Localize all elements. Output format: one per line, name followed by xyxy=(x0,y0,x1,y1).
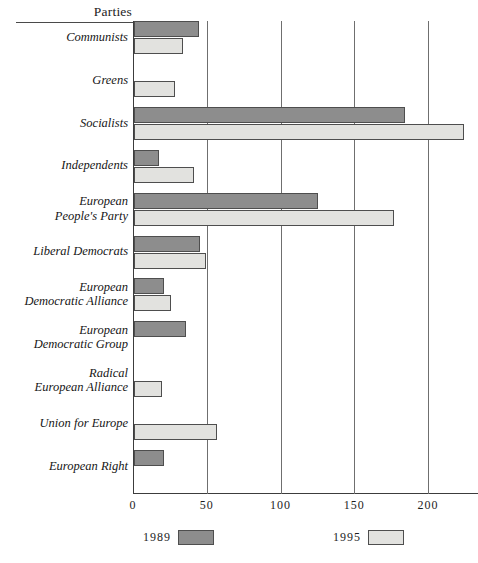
tick-label-150: 150 xyxy=(344,498,365,513)
category-label: EuropeanDemocratic Group xyxy=(0,323,128,352)
bar-1995 xyxy=(134,253,206,269)
chart-row: Union for Europe xyxy=(0,407,478,450)
chart-row: EuropeanDemocratic Group xyxy=(0,321,478,364)
chart-row: Liberal Democrats xyxy=(0,236,478,279)
parties-column-header: Parties xyxy=(14,4,132,20)
legend-item-1989: 1989 xyxy=(143,530,214,545)
category-label-line: European xyxy=(0,280,128,295)
category-label: Communists xyxy=(0,30,128,45)
category-label-line: Democratic Group xyxy=(0,337,128,352)
tick-label-100: 100 xyxy=(270,498,291,513)
chart-row: Greens xyxy=(0,64,478,107)
category-label-line: Radical xyxy=(0,366,128,381)
bar-1989 xyxy=(134,193,318,209)
bar-1989 xyxy=(134,150,159,166)
category-label-line: European Right xyxy=(0,459,128,474)
category-label: Greens xyxy=(0,73,128,88)
tick-label-0: 0 xyxy=(130,498,137,513)
x-axis-line xyxy=(133,493,478,494)
category-label: RadicalEuropean Alliance xyxy=(0,366,128,395)
chart-row: EuropeanDemocratic Alliance xyxy=(0,278,478,321)
chart-row: European Right xyxy=(0,450,478,493)
legend-label: 1989 xyxy=(143,530,171,545)
chart-row: Communists xyxy=(0,21,478,64)
bar-1995 xyxy=(134,167,194,183)
category-label-line: European Alliance xyxy=(0,380,128,395)
category-label: Socialists xyxy=(0,116,128,131)
tick-label-200: 200 xyxy=(418,498,439,513)
category-label-line: European xyxy=(0,323,128,338)
bar-1995 xyxy=(134,81,175,97)
category-label: European Right xyxy=(0,459,128,474)
category-label-line: European xyxy=(0,194,128,209)
bar-1989 xyxy=(134,278,164,294)
category-label-line: People's Party xyxy=(0,209,128,224)
bar-1989 xyxy=(134,21,199,37)
category-label-line: Communists xyxy=(0,30,128,45)
category-label: Union for Europe xyxy=(0,416,128,431)
legend-label: 1995 xyxy=(333,530,361,545)
bar-1995 xyxy=(134,124,464,140)
bar-1995 xyxy=(134,38,183,54)
chart-row: Socialists xyxy=(0,107,478,150)
bar-1989 xyxy=(134,321,186,337)
category-label: EuropeanPeople's Party xyxy=(0,194,128,223)
chart-row: RadicalEuropean Alliance xyxy=(0,364,478,407)
legend-swatch xyxy=(368,530,404,545)
bar-1995 xyxy=(134,381,162,397)
bar-1995 xyxy=(134,295,171,311)
category-label-line: Liberal Democrats xyxy=(0,244,128,259)
category-label-line: Greens xyxy=(0,73,128,88)
category-label: Independents xyxy=(0,158,128,173)
bar-1989 xyxy=(134,107,405,123)
european-parliament-seats-bar-chart: Parties CommunistsGreensSocialistsIndepe… xyxy=(0,0,478,563)
bar-1989 xyxy=(134,450,164,466)
chart-row: EuropeanPeople's Party xyxy=(0,193,478,236)
chart-row: Independents xyxy=(0,150,478,193)
bar-1989 xyxy=(134,236,200,252)
tick-label-50: 50 xyxy=(200,498,214,513)
category-label-line: Union for Europe xyxy=(0,416,128,431)
legend-swatch xyxy=(178,530,214,545)
category-label-line: Democratic Alliance xyxy=(0,294,128,309)
bar-1995 xyxy=(134,424,217,440)
category-label-line: Socialists xyxy=(0,116,128,131)
category-label: EuropeanDemocratic Alliance xyxy=(0,280,128,309)
category-label: Liberal Democrats xyxy=(0,244,128,259)
category-label-line: Independents xyxy=(0,158,128,173)
bar-1995 xyxy=(134,210,394,226)
legend-item-1995: 1995 xyxy=(333,530,404,545)
